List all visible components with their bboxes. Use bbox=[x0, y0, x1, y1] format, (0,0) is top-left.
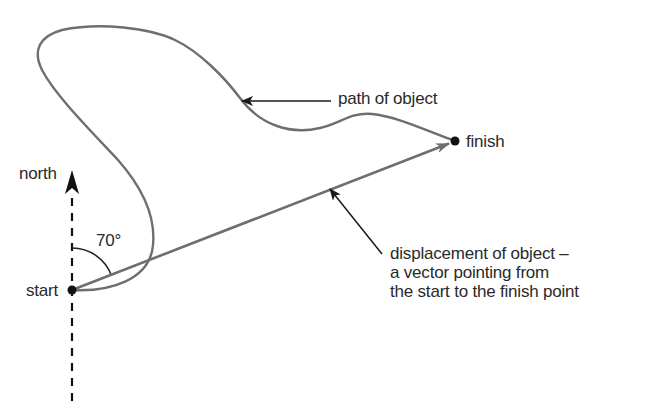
finish-label: finish bbox=[466, 133, 505, 150]
start-label: start bbox=[26, 282, 58, 299]
path-label: path of object bbox=[338, 90, 437, 107]
displacement-label-line-1: displacement of object – bbox=[390, 244, 579, 263]
finish-point bbox=[451, 137, 460, 146]
angle-label: 70° bbox=[96, 232, 121, 249]
displacement-label: displacement of object – a vector pointi… bbox=[390, 244, 579, 301]
displacement-pointer-arrow bbox=[330, 189, 382, 254]
north-arrow-icon bbox=[65, 170, 79, 194]
angle-arc bbox=[72, 248, 112, 276]
displacement-label-line-2: a vector pointing from bbox=[390, 263, 579, 282]
displacement-diagram bbox=[0, 0, 646, 417]
north-label: north bbox=[19, 165, 57, 182]
start-point bbox=[68, 286, 77, 295]
displacement-label-line-3: the start to the finish point bbox=[390, 282, 579, 301]
